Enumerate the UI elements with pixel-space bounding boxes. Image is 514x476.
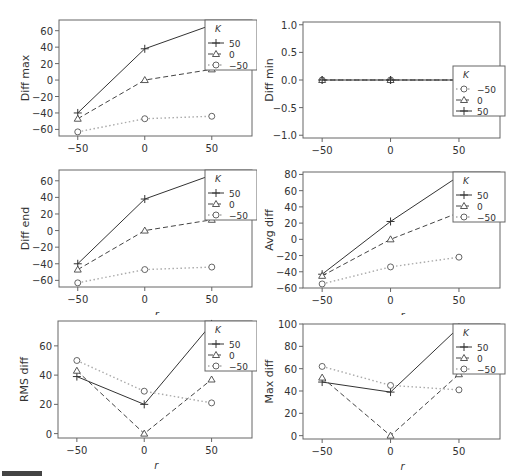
y-tick-label: 40 xyxy=(284,386,297,397)
y-axis-label: Diff max xyxy=(19,54,32,101)
legend-circle-marker-icon xyxy=(461,366,467,372)
y-tick-label: 100 xyxy=(278,319,297,330)
y-tick-label: 80 xyxy=(284,341,297,352)
y-tick-label: 20 xyxy=(284,218,297,229)
y-tick-label: 40 xyxy=(284,202,297,213)
series-triangle-marker-icon xyxy=(319,374,326,380)
series-circle-marker-icon xyxy=(75,129,81,135)
series-circle-marker-icon xyxy=(75,280,81,286)
legend-label: −50 xyxy=(477,365,496,375)
y-tick-label: −40 xyxy=(32,259,53,270)
y-tick-label: −0.5 xyxy=(273,103,297,114)
series-triangle-marker-icon xyxy=(387,236,394,242)
y-tick-label: −20 xyxy=(32,92,53,103)
legend-label: 50 xyxy=(477,107,489,117)
y-tick-label: −40 xyxy=(32,108,53,119)
series-circle-marker-icon xyxy=(388,382,394,388)
series-k-neg50 xyxy=(75,113,215,135)
y-tick-label: −40 xyxy=(276,267,297,278)
series-k-neg50 xyxy=(74,357,215,405)
legend-label: −50 xyxy=(477,85,496,95)
y-tick-label: −20 xyxy=(276,251,297,262)
panel-diff-min: −1.0−0.50.00.51.0Diff min−50050rK−50050 xyxy=(257,0,514,160)
panel-rms-diff: 0204060RMS diff−50050rK500−50 xyxy=(0,310,257,476)
y-tick-label: 80 xyxy=(284,169,297,180)
y-tick-label: 0 xyxy=(291,431,297,442)
series-k-50 xyxy=(74,171,216,268)
figure-caption-cropped xyxy=(0,470,514,476)
series-k-0 xyxy=(319,371,463,438)
legend-label: 0 xyxy=(477,354,483,364)
series-circle-marker-icon xyxy=(142,116,148,122)
legend-label: −50 xyxy=(477,213,496,223)
x-tick-label: −50 xyxy=(67,143,88,154)
legend-label: −50 xyxy=(229,61,248,71)
legend-circle-marker-icon xyxy=(461,86,467,92)
panel-max-diff: 020406080100Max diff−50050rK500−50 xyxy=(257,310,514,476)
legend-label: 0 xyxy=(229,200,235,210)
y-tick-label: −60 xyxy=(32,275,53,286)
x-tick-label: 0 xyxy=(387,295,393,306)
series-k-50 xyxy=(74,21,216,117)
series-k-50 xyxy=(73,320,216,408)
chart-rms-diff: 0204060RMS diff−50050rK500−50 xyxy=(0,310,257,476)
legend: K500−50 xyxy=(453,324,505,375)
legend-circle-marker-icon xyxy=(213,212,219,218)
legend-label: 0 xyxy=(477,202,483,212)
y-tick-label: 20 xyxy=(40,59,53,70)
series-circle-marker-icon xyxy=(209,113,215,119)
x-tick-label: −50 xyxy=(312,446,333,457)
legend: K500−50 xyxy=(205,321,257,372)
y-tick-label: 0.5 xyxy=(281,47,297,58)
y-tick-label: 20 xyxy=(284,408,297,419)
chart-avg-diff: −60−40−20020406080Avg diff−50050rK500−50 xyxy=(257,160,514,315)
chart-diff-end: −60−40−200204060Diff end−50050rK500−50 xyxy=(0,160,257,315)
legend-label: 50 xyxy=(229,340,241,350)
x-tick-label: 0 xyxy=(142,143,148,154)
x-axis: −50050 xyxy=(312,138,466,156)
x-axis: −50050 xyxy=(66,438,218,456)
x-tick-label: 0 xyxy=(141,445,147,456)
x-tick-label: 50 xyxy=(453,145,466,156)
legend-label: 50 xyxy=(477,191,489,201)
chart-max-diff: 020406080100Max diff−50050rK500−50 xyxy=(257,310,514,476)
series-circle-marker-icon xyxy=(319,363,325,369)
y-axis-label: RMS diff xyxy=(18,356,31,402)
legend: K−50050 xyxy=(453,66,505,117)
y-tick-label: 40 xyxy=(39,370,52,381)
series-k-0 xyxy=(74,216,215,272)
series-k-50 xyxy=(318,76,463,84)
series-circle-marker-icon xyxy=(74,357,80,363)
x-tick-label: 50 xyxy=(453,295,466,306)
series-circle-marker-icon xyxy=(388,264,394,270)
legend-label: 50 xyxy=(229,189,241,199)
y-axis: −1.0−0.50.00.51.0 xyxy=(273,20,303,141)
series-circle-marker-icon xyxy=(456,387,462,393)
legend-label: 50 xyxy=(477,343,489,353)
x-axis: −50050 xyxy=(312,288,466,306)
series-k-neg50 xyxy=(75,264,215,286)
series-triangle-marker-icon xyxy=(73,367,80,373)
legend-label: −50 xyxy=(229,362,248,372)
x-tick-label: 50 xyxy=(205,445,218,456)
legend-label: 0 xyxy=(229,351,235,361)
y-tick-label: 0.0 xyxy=(281,75,297,86)
y-tick-label: 60 xyxy=(39,341,52,352)
series-k-neg50 xyxy=(319,254,462,287)
x-tick-label: −50 xyxy=(66,445,87,456)
y-tick-label: −20 xyxy=(32,242,53,253)
y-tick-label: 40 xyxy=(40,42,53,53)
y-tick-label: −60 xyxy=(276,283,297,294)
x-tick-label: −50 xyxy=(312,145,333,156)
series-triangle-marker-icon xyxy=(74,115,81,121)
y-tick-label: 60 xyxy=(284,186,297,197)
x-axis: −50050 xyxy=(312,439,466,457)
y-tick-label: 40 xyxy=(40,192,53,203)
chart-diff-max: −60−40−200204060Diff max−50050rK500−50 xyxy=(0,0,257,160)
series-k-0 xyxy=(74,66,215,121)
series-circle-marker-icon xyxy=(456,254,462,260)
y-axis: 020406080100 xyxy=(278,319,303,442)
x-tick-label: 0 xyxy=(387,446,393,457)
y-tick-label: 1.0 xyxy=(281,20,297,31)
panel-avg-diff: −60−40−20020406080Avg diff−50050rK500−50 xyxy=(257,160,514,315)
